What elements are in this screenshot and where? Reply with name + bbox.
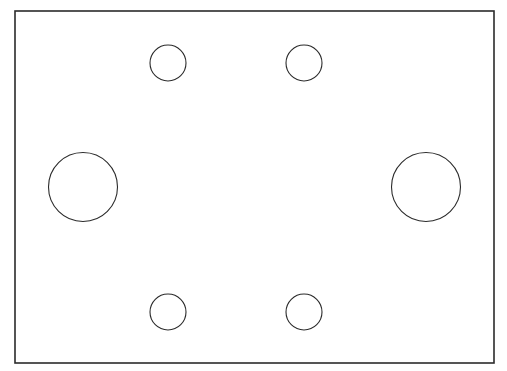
hole-large-right xyxy=(392,153,461,222)
plate-outline xyxy=(15,11,494,363)
hole-small-bottom-right xyxy=(286,294,322,330)
hole-small-top-right xyxy=(286,45,322,81)
hole-small-top-left xyxy=(150,45,186,81)
holes-group xyxy=(49,45,461,330)
hole-large-left xyxy=(49,153,118,222)
plate-drawing xyxy=(0,0,507,371)
hole-small-bottom-left xyxy=(150,294,186,330)
